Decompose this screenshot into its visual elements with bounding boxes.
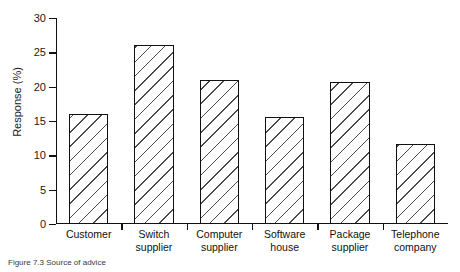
x-axis-label-line: Computer [187,228,252,241]
bar-series [56,18,448,224]
x-axis-label: Telephonecompany [383,228,448,254]
x-axis-label-line: supplier [317,241,382,254]
bar [396,144,435,224]
y-tick-mark [49,52,56,53]
y-tick-label: 15 [34,116,46,127]
y-tick-label: 30 [34,13,46,24]
x-axis-label-line: supplier [187,241,252,254]
x-axis-label: Switchsupplier [121,228,186,254]
x-axis-label: Softwarehouse [252,228,317,254]
y-tick-label: 10 [34,150,46,161]
figure-caption: Figure 7.3 Source of advice [8,258,106,267]
bar [265,117,304,224]
y-axis-title: Response (%) [11,27,23,177]
x-axis-label-line: Telephone [383,228,448,241]
y-tick-label: 0 [40,219,46,230]
y-tick-label: 25 [34,47,46,58]
bar [69,114,108,224]
y-tick-mark [49,155,56,156]
y-tick-mark [49,18,56,19]
y-tick-mark [49,87,56,88]
x-axis-labels: CustomerSwitchsupplierComputersupplierSo… [56,228,448,262]
x-axis-label-line: Switch [121,228,186,241]
x-axis-label: Customer [56,228,121,241]
x-axis-label-line: house [252,241,317,254]
bar [134,45,173,224]
x-axis-label: Packagesupplier [317,228,382,254]
x-axis-label-line: Software [252,228,317,241]
x-axis-label-line: company [383,241,448,254]
bar [200,80,239,224]
y-tick-label: 20 [34,81,46,92]
y-tick-mark [49,190,56,191]
x-axis-label: Computersupplier [187,228,252,254]
y-tick-label: 5 [40,184,46,195]
figure-container: Response (%) 051015202530 CustomerSwitch… [0,0,460,272]
x-axis-label-line: Package [317,228,382,241]
y-tick-mark [49,224,56,225]
y-tick-mark [49,121,56,122]
x-axis-label-line: supplier [121,241,186,254]
bar [330,82,369,224]
plot-area: 051015202530 [56,18,448,224]
x-axis-label-line: Customer [56,228,121,241]
